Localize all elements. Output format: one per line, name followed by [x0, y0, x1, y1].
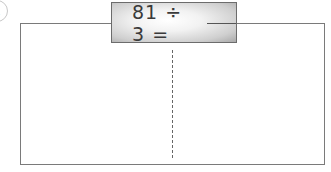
problem-label: 81 ÷ 3 =: [111, 2, 237, 43]
dashed-divider: [172, 50, 173, 158]
problem-number-badge: 1: [0, 0, 8, 22]
answer-blank[interactable]: [207, 22, 236, 24]
problem-expression: 81 ÷ 3 =: [132, 1, 199, 45]
